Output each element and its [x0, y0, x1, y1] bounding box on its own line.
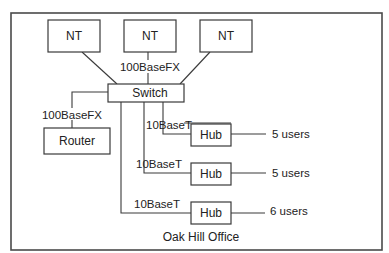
- link-nt1-switch: [82, 52, 117, 84]
- nt-server-2-label: NT: [142, 29, 159, 43]
- nt-server-3-label: NT: [218, 29, 235, 43]
- network-diagram: NT NT NT 100BaseFX Switch 100BaseFX Rout…: [0, 0, 389, 253]
- link-label-nt-switch: 100BaseFX: [120, 61, 180, 73]
- hub-2: Hub: [191, 163, 231, 185]
- router-label: Router: [59, 134, 95, 148]
- nt-server-1: NT: [48, 20, 100, 52]
- hub-1-label: Hub: [200, 128, 222, 142]
- hub-3-users: 6 users: [270, 205, 308, 217]
- hub-2-label: Hub: [200, 167, 222, 181]
- hub-1: Hub: [191, 124, 231, 146]
- link-label-switch-hub2: 10BaseT: [136, 158, 182, 170]
- hub-2-users: 5 users: [272, 167, 310, 179]
- link-switch-router: [72, 92, 108, 108]
- switch: Switch: [108, 84, 184, 102]
- hub-3-label: Hub: [200, 206, 222, 220]
- nt-server-2: NT: [124, 20, 176, 52]
- link-label-switch-hub1: 10BaseT: [146, 119, 192, 131]
- nt-server-1-label: NT: [66, 29, 83, 43]
- hub-1-users: 5 users: [272, 128, 310, 140]
- link-label-switch-hub3: 10BaseT: [134, 198, 180, 210]
- link-nt3-switch: [180, 52, 210, 84]
- router: Router: [44, 128, 110, 154]
- hub-3: Hub: [191, 202, 231, 224]
- switch-label: Switch: [132, 86, 167, 100]
- nt-server-3: NT: [200, 20, 252, 52]
- office-label: Oak Hill Office: [163, 230, 240, 244]
- link-label-switch-router: 100BaseFX: [42, 109, 102, 121]
